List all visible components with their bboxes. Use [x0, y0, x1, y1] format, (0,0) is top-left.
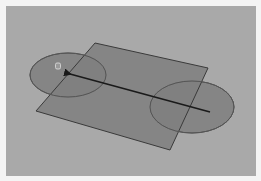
hand-cursor-icon — [56, 63, 61, 69]
scene-canvas[interactable] — [0, 0, 261, 181]
